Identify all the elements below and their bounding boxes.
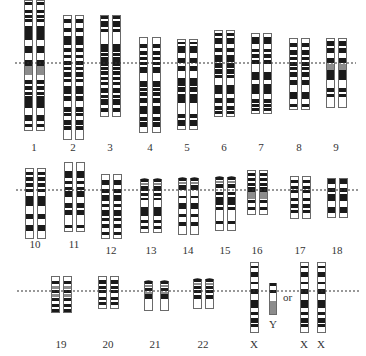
dark-band <box>227 85 234 94</box>
dark-band <box>215 38 222 44</box>
dark-band <box>264 108 271 111</box>
dark-band <box>26 196 33 206</box>
dark-band <box>191 196 198 198</box>
dark-band <box>141 207 148 216</box>
dark-band <box>318 272 325 277</box>
dark-band <box>26 177 33 181</box>
dark-band <box>65 203 72 208</box>
dark-band <box>153 57 160 60</box>
chromatid <box>154 178 162 232</box>
dark-band <box>101 95 108 98</box>
dark-band <box>64 304 71 307</box>
dark-band <box>77 171 84 178</box>
dark-band <box>227 75 234 78</box>
dark-band <box>102 224 109 228</box>
dark-band <box>301 318 308 323</box>
dark-band <box>64 86 71 94</box>
dark-band <box>178 78 185 86</box>
dark-band <box>64 281 71 284</box>
chromatid <box>318 263 326 333</box>
dark-band <box>228 192 235 195</box>
grey-band <box>145 292 152 294</box>
dark-band <box>140 67 147 73</box>
dark-band <box>37 115 44 121</box>
dark-band <box>215 75 222 78</box>
dark-band <box>251 272 258 277</box>
dark-band <box>178 58 185 63</box>
dark-band <box>145 294 152 299</box>
chromatid <box>140 38 148 133</box>
dark-band <box>302 67 309 70</box>
grey-band <box>339 64 346 70</box>
grey-band <box>248 192 255 199</box>
dark-band <box>248 207 255 210</box>
dark-band <box>215 63 222 68</box>
dark-band <box>99 302 106 305</box>
dark-band <box>301 266 308 268</box>
dark-band <box>301 272 308 277</box>
dark-band <box>260 183 267 186</box>
dark-band <box>76 48 83 52</box>
chromosome-label: 21 <box>140 338 170 350</box>
dark-band <box>25 115 32 121</box>
chromatid <box>113 16 121 117</box>
dark-band <box>25 92 32 95</box>
dark-band <box>26 172 33 175</box>
dark-band <box>248 183 255 186</box>
karyotype-diagram: 12345678910111213141516171819202122XYXX … <box>0 0 366 356</box>
dark-band <box>64 96 71 101</box>
dark-band <box>140 98 147 103</box>
dark-band <box>252 49 259 52</box>
dark-band <box>37 96 44 108</box>
dark-band <box>101 82 108 85</box>
chromatid <box>145 280 153 310</box>
dark-band <box>216 184 223 188</box>
dark-band <box>99 297 106 300</box>
dark-band <box>153 117 160 121</box>
grey-band <box>52 286 59 289</box>
chromosome-15 <box>216 176 236 230</box>
dark-band <box>252 72 259 80</box>
dark-band <box>37 124 44 127</box>
dark-band <box>153 98 160 103</box>
dark-band <box>290 57 297 60</box>
dark-band <box>113 108 120 112</box>
dark-band <box>178 94 185 103</box>
chromosome-label: 10 <box>20 238 50 250</box>
dark-band <box>64 309 71 312</box>
dark-band <box>251 282 258 284</box>
dark-band <box>328 179 335 184</box>
chromosome-8 <box>290 39 310 110</box>
chromatid <box>260 171 268 215</box>
dark-band <box>215 55 222 62</box>
dark-band <box>113 16 120 19</box>
or-label: or <box>283 291 292 303</box>
chromosome-label: 3 <box>95 141 125 153</box>
grey-band <box>228 181 235 183</box>
dark-band <box>77 191 84 197</box>
dark-band <box>140 57 147 60</box>
chromosome-21 <box>145 280 169 310</box>
satellite-cap <box>216 176 224 180</box>
dark-band <box>26 183 33 187</box>
grey-band <box>260 192 267 199</box>
dark-band <box>251 300 258 308</box>
dark-band <box>102 232 109 235</box>
dark-band <box>101 57 108 66</box>
chromatid <box>291 177 299 219</box>
dark-band <box>154 193 161 196</box>
grey-band <box>206 283 213 285</box>
dark-band <box>64 55 71 58</box>
chromatid <box>264 34 272 114</box>
dark-band <box>64 48 71 52</box>
dark-band <box>38 225 45 231</box>
dark-band <box>153 44 160 48</box>
dark-band <box>260 207 267 210</box>
dark-band <box>76 67 83 70</box>
chromatid <box>248 171 256 215</box>
dark-band <box>328 194 335 201</box>
dark-band <box>318 266 325 268</box>
chromatid <box>191 177 199 234</box>
chromosome-5 <box>178 40 198 130</box>
dark-band <box>264 37 271 44</box>
